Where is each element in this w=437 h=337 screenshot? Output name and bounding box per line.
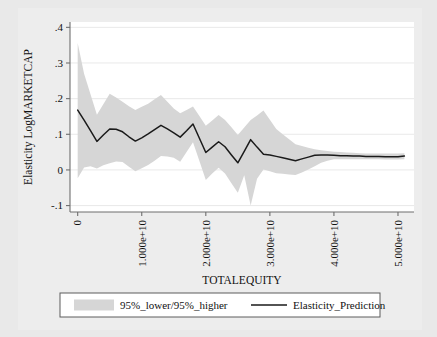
chart-legend: 95%_lower/95%_higherElasticity_Predictio…: [60, 293, 386, 317]
x-tick-label: 0: [71, 220, 83, 226]
y-tick-label: .3: [55, 57, 64, 69]
graph-region: -.10.1.2.3.4 01.000e+102.000e+103.000e+1…: [18, 8, 422, 330]
y-tick-label: 0: [58, 164, 64, 176]
x-tick-label: 4.000e+10: [328, 220, 340, 267]
legend-label: Elasticity_Prediction: [293, 299, 386, 311]
x-axis-title: TOTALEQUITY: [202, 274, 282, 286]
elasticity-marginal-effects-chart: -.10.1.2.3.4 01.000e+102.000e+103.000e+1…: [18, 8, 422, 330]
y-tick-label: .4: [55, 21, 64, 33]
legend-label: 95%_lower/95%_higher: [120, 299, 228, 311]
y-tick-label: -.1: [51, 199, 63, 211]
x-tick-label: 2.000e+10: [200, 220, 212, 267]
x-tick-label: 1.000e+10: [136, 220, 148, 267]
x-tick-label: 3.000e+10: [264, 220, 276, 267]
y-tick-label: .2: [55, 92, 63, 104]
y-tick-label: .1: [55, 128, 63, 140]
chart-screenshot: -.10.1.2.3.4 01.000e+102.000e+103.000e+1…: [0, 0, 437, 337]
legend-swatch-ci: [74, 300, 114, 311]
y-axis-title: Elasticity LogMARKETCAP: [22, 49, 35, 185]
x-tick-label: 5.000e+10: [392, 220, 404, 267]
